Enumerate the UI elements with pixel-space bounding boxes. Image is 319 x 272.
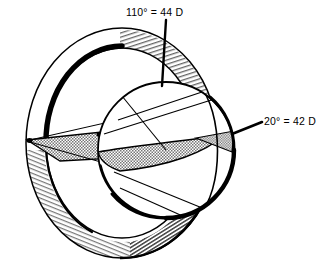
corneal-meridian-diagram: 110° = 44 D 20° = 42 D: [0, 0, 319, 272]
label-flat-meridian: 20° = 42 D: [264, 115, 316, 127]
label-steep-meridian: 110° = 44 D: [126, 6, 184, 18]
figure-root: 110° = 44 D 20° = 42 D: [0, 0, 319, 272]
inner-sphere: [98, 82, 234, 222]
